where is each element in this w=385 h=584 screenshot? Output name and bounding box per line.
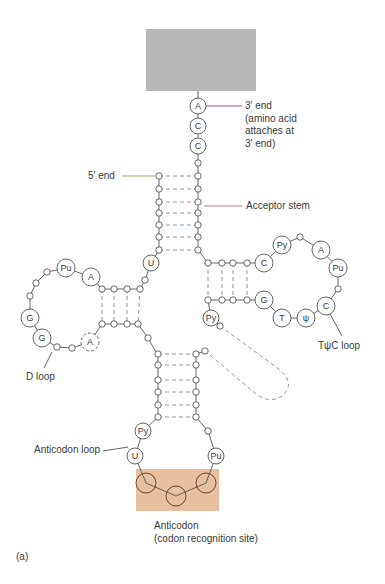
three-prime-line3: attaches at bbox=[245, 125, 297, 138]
anticodon-line1: Anticodon bbox=[154, 520, 258, 533]
acceptor-stem-label: Acceptor stem bbox=[246, 200, 310, 213]
three-prime-line4: 3′ end) bbox=[245, 138, 297, 151]
variable-loop bbox=[205, 326, 289, 400]
svg-text:ψ: ψ bbox=[303, 313, 309, 323]
labeled-nucleotides bbox=[21, 98, 347, 464]
svg-text:A: A bbox=[318, 245, 324, 255]
svg-text:T: T bbox=[279, 313, 285, 323]
base-pair-bonds bbox=[102, 176, 247, 417]
svg-text:A: A bbox=[87, 337, 93, 347]
anticodon-loop-label: Anticodon loop bbox=[34, 444, 100, 457]
three-prime-line1: 3′ end bbox=[245, 100, 297, 113]
d-loop-label: D loop bbox=[26, 371, 55, 384]
svg-text:Pu: Pu bbox=[332, 263, 343, 273]
backbone bbox=[30, 91, 338, 496]
trna-cloverleaf-diagram: A C C U C Py A Pu C ψ T G Py Pu A G G A … bbox=[0, 0, 385, 584]
three-prime-end-label: 3′ end (amino acid attaches at 3′ end) bbox=[245, 100, 297, 150]
amino-acid-box bbox=[146, 29, 256, 91]
svg-text:A: A bbox=[88, 272, 94, 282]
svg-text:C: C bbox=[261, 258, 268, 268]
svg-text:G: G bbox=[38, 333, 45, 343]
svg-text:C: C bbox=[195, 141, 202, 151]
anticodon-label: Anticodon (codon recognition site) bbox=[154, 520, 258, 545]
svg-text:Pu: Pu bbox=[60, 263, 71, 273]
anticodon-line2: (codon recognition site) bbox=[154, 533, 258, 546]
five-prime-end-label: 5′ end bbox=[88, 170, 115, 183]
t-loop-label: TψC loop bbox=[318, 340, 360, 353]
svg-text:Pu: Pu bbox=[210, 451, 221, 461]
anticodon-box bbox=[136, 469, 219, 511]
svg-text:G: G bbox=[260, 295, 267, 305]
svg-text:U: U bbox=[132, 451, 139, 461]
svg-text:Py: Py bbox=[138, 426, 149, 436]
svg-text:Py: Py bbox=[277, 240, 288, 250]
svg-text:U: U bbox=[148, 258, 155, 268]
three-prime-line2: (amino acid bbox=[245, 113, 297, 126]
svg-text:A: A bbox=[195, 101, 201, 111]
svg-text:C: C bbox=[323, 301, 330, 311]
nucleotide-letters: A C C U C Py A Pu C ψ T G Py Pu A G G A … bbox=[26, 101, 343, 461]
svg-text:C: C bbox=[195, 121, 202, 131]
svg-text:Py: Py bbox=[206, 313, 217, 323]
svg-text:G: G bbox=[26, 313, 33, 323]
panel-label: (a) bbox=[16, 551, 28, 564]
